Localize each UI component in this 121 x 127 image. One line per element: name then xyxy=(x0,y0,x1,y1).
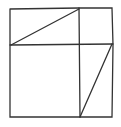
horizontal-divider xyxy=(10,44,113,45)
bottom-right-diagonal xyxy=(80,44,112,117)
outer-square xyxy=(10,8,113,117)
geometry-diagram xyxy=(0,0,121,127)
vertical-divider xyxy=(79,8,80,117)
top-left-diagonal xyxy=(11,9,79,45)
